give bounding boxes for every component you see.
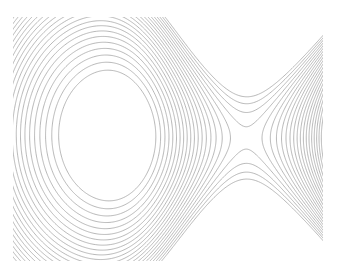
contour-plot-canvas: [0, 0, 337, 273]
contour-plot-figure: [0, 0, 337, 273]
